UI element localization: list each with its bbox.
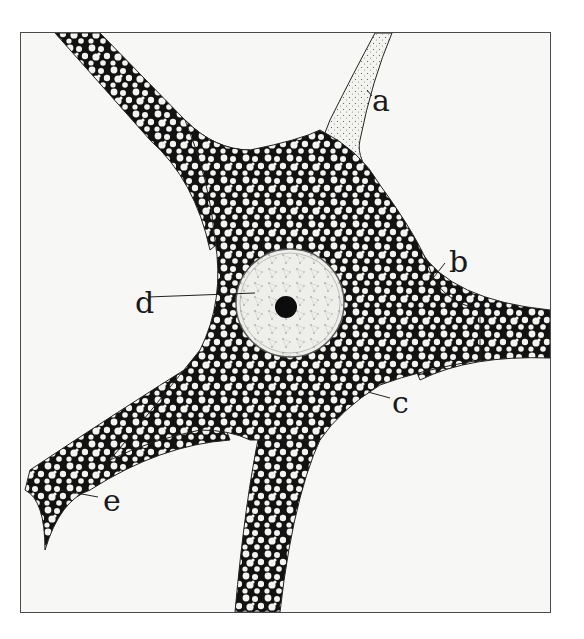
label-b: b: [449, 247, 468, 277]
dendrite-bottom: [235, 420, 330, 612]
label-d: d: [135, 288, 154, 318]
label-c: c: [392, 388, 409, 418]
label-e: e: [103, 486, 121, 516]
neuron-illustration: [0, 0, 584, 639]
label-a: a: [372, 86, 390, 116]
nucleolus: [275, 296, 297, 318]
